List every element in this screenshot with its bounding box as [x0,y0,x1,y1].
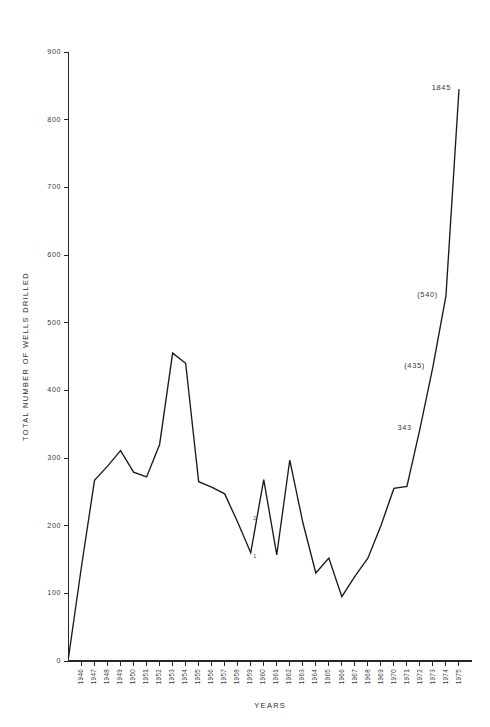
x-tick-label: 1954 [181,669,188,684]
x-tick-label: 1969 [377,669,384,684]
x-axis-ticks [82,661,459,666]
x-tick-label: 1955 [194,669,201,684]
data-annotation: 1845 [432,83,451,92]
x-tick-label: 1962 [285,669,292,684]
x-tick-label: 1951 [142,669,149,684]
y-tick-label: 600 [47,250,61,259]
x-tick-label: 1953 [168,669,175,684]
y-tick-label: 200 [47,521,61,530]
x-tick-label: 1952 [155,669,162,684]
y-tick-label: 800 [47,115,61,124]
data-series-line [69,89,459,657]
y-axis-ticks [64,52,69,661]
x-tick-label: 1974 [442,669,449,684]
x-tick-label: 1965 [324,669,331,684]
x-axis-tick-labels: 1946194719481949195019511952195319541955… [77,669,461,684]
data-annotation: 1 [253,553,256,559]
line-chart: 0100200300400500600700800900 19461947194… [0,0,490,727]
x-tick-label: 1949 [116,669,123,684]
chart-figure: 0100200300400500600700800900 19461947194… [0,0,490,727]
x-tick-label: 1970 [390,669,397,684]
x-tick-label: 1948 [103,669,110,684]
y-axis-tick-labels: 0100200300400500600700800900 [47,47,61,665]
y-tick-label: 900 [47,47,61,56]
chart-axes [69,52,473,661]
x-tick-label: 1959 [246,669,253,684]
x-tick-label: 1967 [351,669,358,684]
x-tick-label: 1975 [455,669,462,684]
y-tick-label: 0 [56,656,61,665]
data-annotation: (435) [404,361,425,370]
x-tick-label: 1960 [259,669,266,684]
data-annotation: (540) [417,290,438,299]
x-tick-label: 1971 [403,669,410,684]
x-tick-label: 1963 [298,669,305,684]
x-tick-label: 1964 [311,669,318,684]
x-tick-label: 1968 [364,669,371,684]
y-tick-label: 100 [47,588,61,597]
x-tick-label: 1947 [90,669,97,684]
y-tick-label: 400 [47,385,61,394]
x-tick-label: 1966 [338,669,345,684]
x-tick-label: 1957 [220,669,227,684]
x-tick-label: 1973 [429,669,436,684]
x-tick-label: 1946 [77,669,84,684]
y-tick-label: 500 [47,318,61,327]
y-axis-title: TOTAL NUMBER OF WELLS DRILLED [21,272,30,441]
x-tick-label: 1972 [416,669,423,684]
x-tick-label: 1950 [129,669,136,684]
x-tick-label: 1961 [272,669,279,684]
data-annotations: 1845(540)(435)34321 [253,83,451,558]
y-tick-label: 700 [47,182,61,191]
x-axis-title: YEARS [254,701,286,710]
x-tick-label: 1958 [233,669,240,684]
data-annotation: 2 [253,515,256,521]
series-path [69,89,459,657]
x-tick-label: 1956 [207,669,214,684]
data-annotation: 343 [397,423,411,432]
y-tick-label: 300 [47,453,61,462]
